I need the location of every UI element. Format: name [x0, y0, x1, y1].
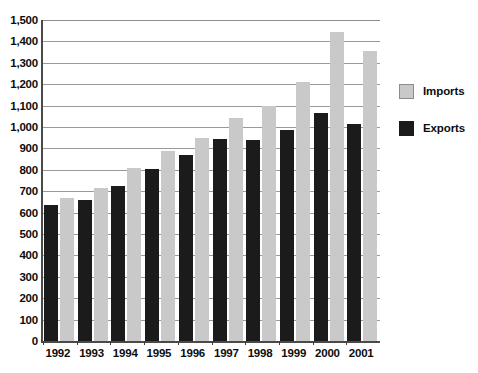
y-axis-tick-label: 700: [0, 186, 38, 197]
y-axis-tick-label: 0: [0, 336, 38, 347]
y-axis-tick-label: 200: [0, 293, 38, 304]
x-axis-tick: [245, 341, 246, 345]
bar-group: [212, 20, 246, 341]
bar-group: [313, 20, 347, 341]
bar-imports[interactable]: [363, 51, 377, 341]
x-axis-tick: [144, 341, 145, 345]
bar-group: [346, 20, 380, 341]
bar-group: [43, 20, 77, 341]
y-axis-tick-label: 1,500: [0, 15, 38, 26]
y-axis: 1,5001,4001,3001,2001,1001,0009008007006…: [0, 0, 38, 373]
bar-exports[interactable]: [213, 139, 227, 341]
legend-label: Exports: [423, 122, 465, 134]
bar-group: [178, 20, 212, 341]
legend-swatch-exports-icon: [399, 121, 414, 136]
x-axis-tick: [346, 341, 347, 345]
y-axis-tick-label: 600: [0, 207, 38, 218]
y-axis-tick-label: 400: [0, 250, 38, 261]
x-axis-tick: [178, 341, 179, 345]
bar-chart: 1,5001,4001,3001,2001,1001,0009008007006…: [0, 0, 478, 373]
bar-exports[interactable]: [111, 186, 125, 341]
plot-area: [41, 20, 380, 343]
x-axis-labels: 1992199319941995199619971998199920002001: [41, 347, 381, 367]
legend-item-imports[interactable]: Imports: [399, 83, 477, 99]
y-axis-tick-label: 1,000: [0, 122, 38, 133]
y-axis-tick-label: 800: [0, 164, 38, 175]
x-axis-tick: [110, 341, 111, 345]
y-axis-tick-label: 900: [0, 143, 38, 154]
bar-exports[interactable]: [44, 205, 58, 341]
bar-exports[interactable]: [280, 130, 294, 341]
bar-imports[interactable]: [229, 118, 243, 341]
y-axis-tick-label: 500: [0, 229, 38, 240]
bar-exports[interactable]: [246, 140, 260, 341]
bar-exports[interactable]: [179, 155, 193, 341]
bar-group: [245, 20, 279, 341]
bar-group: [144, 20, 178, 341]
bar-group: [77, 20, 111, 341]
bar-imports[interactable]: [94, 188, 108, 341]
x-axis-tick: [43, 341, 44, 345]
x-axis-tick: [77, 341, 78, 345]
y-axis-tick-label: 1,100: [0, 100, 38, 111]
bar-imports[interactable]: [161, 151, 175, 341]
bar-group: [110, 20, 144, 341]
x-axis-tick: [279, 341, 280, 345]
legend-swatch-imports-icon: [399, 84, 414, 99]
bar-imports[interactable]: [195, 138, 209, 341]
legend-label: Imports: [423, 85, 464, 97]
bar-imports[interactable]: [60, 198, 74, 341]
x-axis-tick: [212, 341, 213, 345]
bar-imports[interactable]: [330, 32, 344, 341]
bar-exports[interactable]: [314, 113, 328, 341]
legend-item-exports[interactable]: Exports: [399, 120, 477, 136]
bar-exports[interactable]: [347, 124, 361, 341]
x-axis-tick: [313, 341, 314, 345]
y-axis-tick-label: 100: [0, 314, 38, 325]
bar-group: [279, 20, 313, 341]
y-axis-tick-label: 1,400: [0, 36, 38, 47]
y-axis-tick-label: 1,200: [0, 79, 38, 90]
bar-exports[interactable]: [78, 200, 92, 341]
x-axis-label: 2001: [341, 347, 381, 359]
bar-imports[interactable]: [262, 106, 276, 341]
y-axis-tick-label: 300: [0, 271, 38, 282]
y-axis-tick-label: 1,300: [0, 57, 38, 68]
chart-legend: ImportsExports: [399, 83, 477, 157]
bar-groups: [43, 20, 380, 341]
bar-exports[interactable]: [145, 169, 159, 341]
bar-imports[interactable]: [127, 168, 141, 341]
bar-imports[interactable]: [296, 82, 310, 341]
